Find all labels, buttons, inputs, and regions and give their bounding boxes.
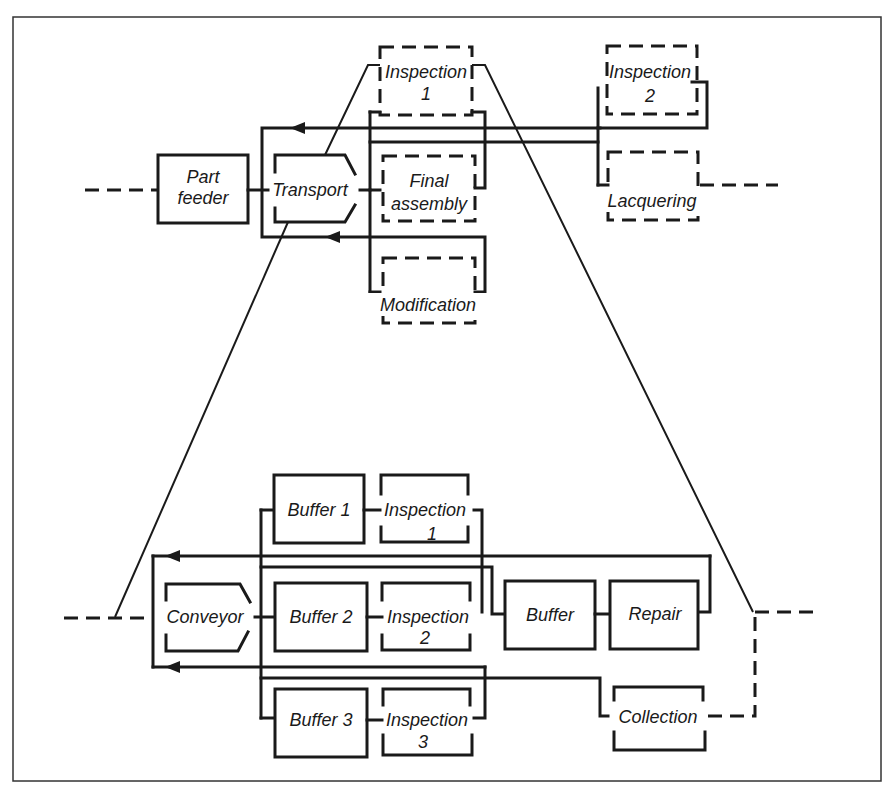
lower-return-arrow-bottom	[165, 661, 180, 673]
inspection-3-lower-node: Inspection 3	[383, 689, 472, 755]
buffer-2-label: Buffer 2	[289, 607, 352, 627]
inspection-2-upper-label-1: Inspection	[609, 62, 691, 82]
collection-label: Collection	[618, 707, 697, 727]
inspection-3-lower-label-2: 3	[418, 732, 428, 752]
final-assembly-label-1: Final	[409, 171, 449, 191]
inspection-3-lower-label-1: Inspection	[386, 710, 468, 730]
buffer-label: Buffer	[526, 605, 575, 625]
conveyor-node: Conveyor	[166, 584, 250, 651]
inspection-1-lower-label-1: Inspection	[384, 500, 466, 520]
inspection-1-upper-label-1: Inspection	[385, 62, 467, 82]
collection-dashed-link	[708, 614, 755, 716]
lacquering-label: Lacquering	[607, 191, 696, 211]
return-arrow-top	[290, 122, 305, 134]
inspection-2-lower-node: Inspection 2	[382, 583, 470, 650]
inspection-2-upper-label-2: 2	[644, 86, 655, 106]
buffer-node: Buffer	[505, 581, 595, 649]
lower-return-arrow-top	[165, 550, 180, 562]
manufacturing-flow-diagram: Part feeder Transport Inspection	[0, 0, 892, 787]
inspection-2-lower-label-2: 2	[419, 628, 430, 648]
inspection-2-upper-node: Inspection 2	[607, 46, 697, 114]
repair-label: Repair	[628, 604, 682, 624]
part-feeder-node: Part feeder	[158, 155, 248, 223]
collection-node: Collection	[614, 687, 705, 750]
part-feeder-label-1: Part	[186, 167, 220, 187]
part-feeder-label-2: feeder	[177, 188, 229, 208]
buffer-1-label: Buffer 1	[287, 500, 350, 520]
return-arrow-bottom	[325, 231, 340, 243]
final-assembly-label-2: assembly	[391, 194, 468, 214]
buffer-1-node: Buffer 1	[274, 475, 364, 543]
final-assembly-node: Final assembly	[383, 156, 475, 221]
conveyor-label: Conveyor	[166, 607, 244, 627]
buffer-3-label: Buffer 3	[289, 710, 352, 730]
inspection-1-upper-label-2: 1	[421, 84, 431, 104]
inspection-2-lower-label-1: Inspection	[387, 607, 469, 627]
transport-label: Transport	[272, 180, 349, 200]
buffer-2-node: Buffer 2	[275, 583, 367, 651]
buffer-3-node: Buffer 3	[275, 689, 367, 757]
lower-diagram: Conveyor Buffer 1 Inspection 1 Buffer 2	[64, 475, 815, 757]
inspection-1-lower-label-2: 1	[427, 524, 437, 544]
lacquering-node: Lacquering	[596, 152, 716, 220]
modification-label: Modification	[380, 295, 476, 315]
inspection-1-upper-node: Inspection 1	[380, 47, 472, 115]
upper-diagram: Part feeder Transport Inspection	[85, 46, 778, 323]
repair-node: Repair	[610, 581, 698, 649]
inspection-1-lower-node: Inspection 1	[381, 475, 468, 544]
transport-node: Transport	[272, 155, 355, 222]
